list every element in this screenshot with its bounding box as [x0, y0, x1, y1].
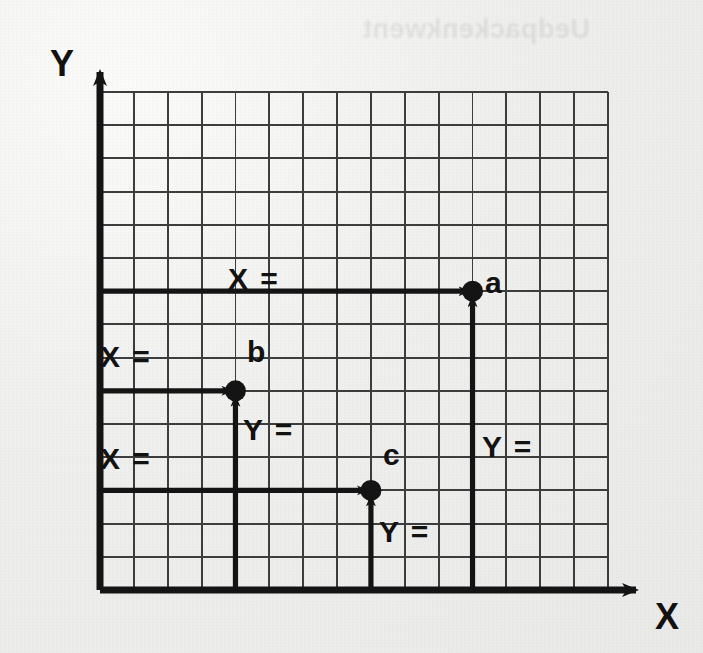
x-value-blank-a[interactable]: X =	[228, 264, 280, 294]
axes	[100, 72, 636, 590]
point-label-c: c	[383, 440, 400, 470]
coordinate-grid-figure	[0, 0, 703, 653]
point-label-b: b	[247, 337, 265, 367]
grid-lines	[100, 92, 608, 590]
y-value-blank-c[interactable]: Y =	[379, 517, 430, 547]
x-value-blank-b[interactable]: X =	[100, 342, 152, 372]
y-value-blank-a[interactable]: Y =	[482, 432, 533, 462]
point-dot-b[interactable]	[225, 380, 246, 401]
point-label-a: a	[485, 268, 502, 298]
point-dot-c[interactable]	[360, 480, 381, 501]
x-value-blank-c[interactable]: X =	[100, 444, 152, 474]
point-dot-a[interactable]	[462, 281, 483, 302]
y-axis-label: Y	[50, 46, 74, 82]
x-axis-label: X	[655, 599, 679, 635]
y-value-blank-b[interactable]: Y =	[243, 415, 294, 445]
